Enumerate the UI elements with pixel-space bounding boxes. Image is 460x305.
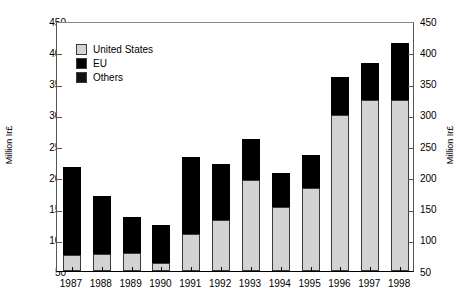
y-tick-mark: [57, 86, 62, 87]
bar-1990: [152, 225, 170, 271]
bar-segment-united-states: [391, 100, 409, 271]
x-tick-mark: [191, 267, 192, 271]
legend-label: EU: [93, 58, 107, 69]
y-tick-label-right: 350: [420, 79, 460, 90]
bar-segment-eu: [391, 43, 409, 100]
bar-1993: [242, 139, 260, 271]
y-tick-label-right: 300: [420, 110, 460, 121]
chart-legend: United StatesEUOthers: [76, 44, 153, 83]
bar-segment-eu: [93, 196, 111, 254]
y-tick-mark: [408, 179, 413, 180]
bar-segment-united-states: [212, 220, 230, 271]
x-tick-mark: [251, 267, 252, 271]
x-tick-mark: [370, 267, 371, 271]
y-tick-mark: [57, 117, 62, 118]
bar-segment-eu: [212, 164, 230, 220]
legend-item-united-states: United States: [76, 44, 153, 55]
x-tick-mark: [311, 267, 312, 271]
bar-1995: [302, 155, 320, 271]
bar-segment-united-states: [182, 234, 200, 272]
y-tick-mark: [408, 117, 413, 118]
bar-1991: [182, 157, 200, 271]
bar-segment-united-states: [272, 207, 290, 271]
y-tick-mark: [408, 86, 413, 87]
x-tick-label-1998: 1998: [379, 278, 419, 289]
stacked-bar-chart: Million Ir£ Million Ir£ 5010015020025030…: [0, 0, 460, 305]
y-axis-label-left: Million Ir£: [4, 115, 14, 175]
bar-segment-eu: [182, 157, 200, 234]
bar-1997: [361, 63, 379, 271]
legend-item-others: Others: [76, 72, 153, 83]
y-tick-mark: [57, 242, 62, 243]
legend-label: United States: [93, 44, 153, 55]
x-tick-mark: [400, 267, 401, 271]
y-tick-mark: [57, 211, 62, 212]
y-tick-label-right: 50: [420, 267, 460, 278]
bar-1989: [123, 217, 141, 271]
bar-1988: [93, 196, 111, 271]
x-tick-mark: [340, 267, 341, 271]
bar-segment-united-states: [361, 100, 379, 271]
x-tick-mark: [72, 267, 73, 271]
bar-segment-eu: [302, 155, 320, 188]
bar-1998: [391, 43, 409, 271]
bar-1994: [272, 173, 290, 271]
x-tick-mark: [221, 267, 222, 271]
y-tick-label-right: 400: [420, 48, 460, 59]
bar-1987: [63, 167, 81, 271]
bar-segment-eu: [152, 225, 170, 263]
bar-segment-eu: [123, 217, 141, 253]
y-tick-label-right: 200: [420, 173, 460, 184]
y-tick-mark: [57, 179, 62, 180]
y-tick-mark: [408, 211, 413, 212]
legend-swatch-icon: [76, 44, 87, 55]
legend-item-eu: EU: [76, 58, 153, 69]
bar-segment-eu: [242, 139, 260, 180]
bar-1992: [212, 164, 230, 271]
y-tick-label-right: 150: [420, 204, 460, 215]
x-tick-mark: [132, 267, 133, 271]
y-tick-label-right: 100: [420, 235, 460, 246]
bar-segment-united-states: [302, 188, 320, 271]
y-tick-mark: [57, 148, 62, 149]
bar-segment-eu: [331, 77, 349, 115]
x-tick-mark: [281, 267, 282, 271]
legend-label: Others: [93, 72, 123, 83]
y-tick-mark: [408, 242, 413, 243]
legend-swatch-icon: [76, 72, 87, 83]
x-tick-mark: [161, 267, 162, 271]
bar-1996: [331, 77, 349, 271]
bar-segment-eu: [361, 63, 379, 100]
y-tick-mark: [408, 148, 413, 149]
y-tick-mark: [408, 54, 413, 55]
bar-segment-united-states: [242, 180, 260, 271]
legend-swatch-icon: [76, 58, 87, 69]
y-tick-label-right: 250: [420, 142, 460, 153]
y-tick-label-right: 450: [420, 17, 460, 28]
bar-segment-united-states: [331, 115, 349, 271]
x-tick-mark: [102, 267, 103, 271]
y-tick-mark: [57, 54, 62, 55]
bar-segment-eu: [272, 173, 290, 207]
bar-segment-eu: [63, 167, 81, 256]
